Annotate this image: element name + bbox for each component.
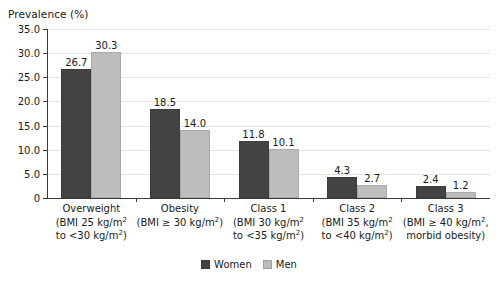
category-sublabel-line2: (BMI ≥ 30 kg/m2) bbox=[136, 216, 225, 230]
bar-value-label: 18.5 bbox=[154, 97, 176, 108]
bar-group: 18.514.0 bbox=[150, 29, 210, 198]
bar-value-label: 1.2 bbox=[453, 180, 469, 191]
legend-label: Men bbox=[276, 259, 297, 270]
y-axis-tick-label: 10.0 bbox=[18, 144, 40, 155]
y-axis-tick-label: 30.0 bbox=[18, 48, 40, 59]
bar-value-label: 4.3 bbox=[334, 165, 350, 176]
legend-item-women[interactable]: Women bbox=[201, 259, 252, 270]
bar-men[interactable]: 10.1 bbox=[269, 149, 299, 198]
plot-inner: 35.030.025.020.015.010.05.00 26.730.318.… bbox=[47, 29, 490, 198]
x-axis-category-label: Class 2(BMI 35 kg/m2to <40 kg/m2) bbox=[313, 202, 402, 243]
category-name: Overweight bbox=[47, 202, 136, 216]
x-axis-category-label: Class 1(BMI 30 kg/m2to <35 kg/m2) bbox=[224, 202, 313, 243]
x-axis-category-label: Class 3(BMI ≥ 40 kg/m2,morbid obesity) bbox=[401, 202, 490, 243]
category-sublabel-line3: morbid obesity) bbox=[401, 229, 490, 243]
x-axis-category-labels: Overweight(BMI 25 kg/m2to <30 kg/m2)Obes… bbox=[47, 202, 490, 254]
bar-group: 2.41.2 bbox=[416, 29, 476, 198]
legend-swatch-icon bbox=[201, 260, 210, 269]
bar-value-label: 30.3 bbox=[95, 40, 117, 51]
y-axis-tick-label: 5.0 bbox=[24, 168, 40, 179]
bar-value-label: 2.7 bbox=[364, 173, 380, 184]
y-axis-tick-label: 15.0 bbox=[18, 120, 40, 131]
prevalence-bar-chart: Prevalence (%) 35.030.025.020.015.010.05… bbox=[0, 0, 498, 281]
bar-value-label: 26.7 bbox=[65, 57, 87, 68]
category-sublabel-line2: (BMI 35 kg/m2 bbox=[313, 216, 402, 230]
chart-axis-title: Prevalence (%) bbox=[8, 8, 89, 20]
x-axis-category-label: Obesity(BMI ≥ 30 kg/m2) bbox=[136, 202, 225, 229]
bar-men[interactable]: 14.0 bbox=[180, 130, 210, 198]
category-sublabel-line2: (BMI 25 kg/m2 bbox=[47, 216, 136, 230]
bar-value-label: 14.0 bbox=[184, 118, 206, 129]
legend-label: Women bbox=[214, 259, 252, 270]
category-name: Class 1 bbox=[224, 202, 313, 216]
legend-item-men[interactable]: Men bbox=[263, 259, 297, 270]
bar-value-label: 11.8 bbox=[242, 129, 264, 140]
bar-value-label: 10.1 bbox=[272, 137, 294, 148]
category-name: Obesity bbox=[136, 202, 225, 216]
bar-men[interactable]: 30.3 bbox=[91, 52, 121, 198]
category-sublabel-line3: to <40 kg/m2) bbox=[313, 229, 402, 243]
x-axis-category-label: Overweight(BMI 25 kg/m2to <30 kg/m2) bbox=[47, 202, 136, 243]
y-axis-tick-label: 25.0 bbox=[18, 72, 40, 83]
bar-group: 26.730.3 bbox=[61, 29, 121, 198]
x-axis-line bbox=[47, 198, 490, 199]
plot-area: 35.030.025.020.015.010.05.00 26.730.318.… bbox=[47, 29, 490, 198]
bar-group: 11.810.1 bbox=[239, 29, 299, 198]
y-axis-line bbox=[47, 29, 48, 198]
category-sublabel-line3: to <35 kg/m2) bbox=[224, 229, 313, 243]
bar-women[interactable]: 2.4 bbox=[416, 186, 446, 198]
bar-value-label: 2.4 bbox=[423, 174, 439, 185]
bar-group: 4.32.7 bbox=[327, 29, 387, 198]
chart-legend: WomenMen bbox=[0, 259, 498, 270]
category-sublabel-line3: to <30 kg/m2) bbox=[47, 229, 136, 243]
legend-swatch-icon bbox=[263, 260, 272, 269]
bar-women[interactable]: 4.3 bbox=[327, 177, 357, 198]
category-sublabel-line2: (BMI 30 kg/m2 bbox=[224, 216, 313, 230]
y-axis-tick-label: 20.0 bbox=[18, 96, 40, 107]
category-sublabel-line2: (BMI ≥ 40 kg/m2, bbox=[401, 216, 490, 230]
bar-women[interactable]: 18.5 bbox=[150, 109, 180, 198]
bar-women[interactable]: 11.8 bbox=[239, 141, 269, 198]
category-name: Class 2 bbox=[313, 202, 402, 216]
bar-men[interactable]: 2.7 bbox=[357, 185, 387, 198]
y-axis-tick-label: 0 bbox=[34, 193, 40, 204]
bar-women[interactable]: 26.7 bbox=[61, 69, 91, 198]
category-name: Class 3 bbox=[401, 202, 490, 216]
y-axis-tick-label: 35.0 bbox=[18, 24, 40, 35]
